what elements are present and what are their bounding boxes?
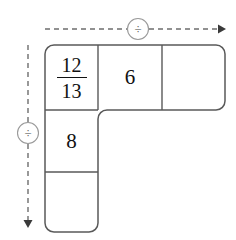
horizontal-guide-arrowhead (218, 25, 226, 34)
cell-r1c3[interactable] (162, 45, 225, 110)
vertical-guide-arrowhead (24, 220, 33, 228)
cell-r1c2[interactable]: 6 (98, 45, 162, 110)
fraction-bar (57, 77, 87, 78)
horizontal-division-operator: ÷ (128, 19, 148, 39)
fraction-numerator: 12 (62, 55, 82, 76)
cell-r2c1[interactable]: 8 (45, 110, 98, 172)
fraction-12-13: 12 13 (57, 55, 87, 101)
cell-r1c1[interactable]: 12 13 (45, 45, 98, 110)
cell-r3c1[interactable] (45, 172, 98, 232)
diagram-svg (0, 0, 236, 240)
fraction-denominator: 13 (62, 80, 82, 101)
vertical-division-operator: ÷ (18, 123, 38, 143)
diagram-canvas: ÷ ÷ 12 13 6 8 (0, 0, 236, 240)
